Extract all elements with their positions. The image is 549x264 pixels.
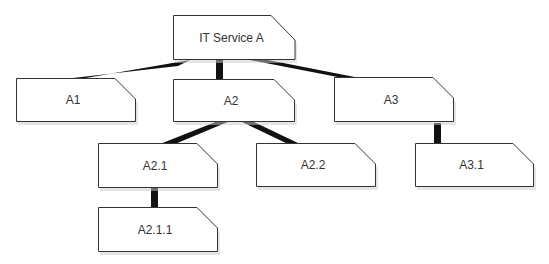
node-label: A3.1: [415, 143, 534, 187]
connector-a3-a31: [434, 123, 441, 144]
node-a3[interactable]: A3: [334, 77, 454, 122]
node-a3-1[interactable]: A3.1: [415, 143, 534, 187]
connector-root-a2: [216, 60, 223, 80]
node-label: A2: [173, 79, 295, 122]
node-label: IT Service A: [173, 15, 296, 60]
connector-root-a1: [64, 60, 190, 79]
node-label: A2.1: [98, 143, 218, 188]
connector-a21-a211: [151, 188, 158, 208]
node-label: A2.2: [256, 143, 376, 187]
node-a2-2[interactable]: A2.2: [256, 143, 376, 187]
node-a2-1[interactable]: A2.1: [98, 143, 218, 188]
node-a2[interactable]: A2: [173, 79, 295, 122]
node-label: A1: [16, 78, 136, 122]
node-label: A2.1.1: [98, 207, 218, 252]
node-label: A3: [334, 77, 454, 122]
node-a1[interactable]: A1: [16, 78, 136, 122]
node-it-service-a[interactable]: IT Service A: [173, 15, 296, 60]
node-a2-1-1[interactable]: A2.1.1: [98, 207, 218, 252]
